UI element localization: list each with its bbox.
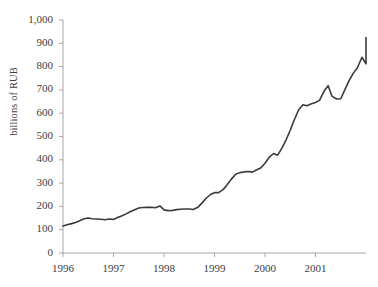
x-tick-label: 2001 [292,262,340,274]
y-tick-label: 500 [11,129,53,141]
y-tick-label: 1,000 [11,13,53,25]
y-tick-label: 600 [11,106,53,118]
y-tick-label: 900 [11,36,53,48]
y-tick-label: 300 [11,176,53,188]
y-axis-ticks [59,20,63,253]
y-tick-label: 100 [11,222,53,234]
x-tick-label: 1997 [90,262,138,274]
x-tick-label: 1998 [140,262,188,274]
x-tick-label: 2000 [241,262,289,274]
y-tick-label: 800 [11,59,53,71]
line-chart [0,0,378,287]
y-tick-label: 200 [11,199,53,211]
x-axis-ticks [63,253,316,257]
data-series-line [63,37,366,226]
y-tick-label: 0 [11,246,53,258]
x-tick-label: 1996 [39,262,87,274]
y-tick-label: 400 [11,152,53,164]
y-tick-label: 700 [11,82,53,94]
chart-container: billions of RUB 010020030040050060070080… [0,0,378,287]
x-tick-label: 1999 [191,262,239,274]
